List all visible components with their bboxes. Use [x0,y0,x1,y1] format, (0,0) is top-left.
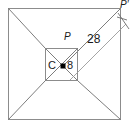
label-center-c: C [48,60,56,71]
diagonal-bottom-left [9,81,46,120]
label-apex-p-prime: P′ [120,0,129,10]
label-apex-p-prime-letter: P [120,0,127,10]
geometry-figure: P P′ C 8 28 [0,0,135,128]
label-inner-length: 8 [67,60,73,71]
diagonal-top-left [9,9,46,49]
label-apex-p-prime-mark: ′ [127,0,129,10]
center-point-marker [61,64,66,69]
diagonal-bottom-right [78,81,121,120]
label-distance-28: 28 [87,33,100,45]
label-apex-p: P [64,32,71,42]
